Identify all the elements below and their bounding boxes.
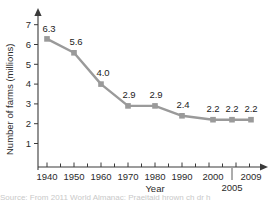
- data-point-label: 2.9: [122, 89, 135, 100]
- x-tick-label-1990: 1990: [171, 171, 192, 182]
- data-point-label: 5.6: [69, 36, 82, 47]
- x-axis-arrow-icon: [260, 163, 268, 170]
- y-tick-label-3: 3: [26, 98, 31, 109]
- data-point-label: 4.0: [96, 67, 109, 78]
- data-point-label: 2.2: [206, 103, 219, 114]
- x-tick-label-2005: 2005: [221, 182, 242, 193]
- data-point-marker: [71, 50, 77, 56]
- data-point-marker: [210, 117, 216, 123]
- data-point-marker: [248, 117, 254, 123]
- x-tick-marks: [47, 163, 250, 168]
- data-point-label: 2.2: [225, 103, 238, 114]
- y-axis-title: Number of farms (millions): [4, 44, 15, 155]
- data-point-label: 2.9: [149, 89, 162, 100]
- data-point-markers: [44, 36, 254, 122]
- y-axis: [34, 8, 41, 170]
- data-point-marker: [179, 113, 185, 119]
- data-point-marker: [229, 117, 235, 123]
- chart-svg: 7 6 5 4 3 2 1 Number of farms (millions): [0, 0, 271, 202]
- data-point-label: 2.2: [244, 103, 257, 114]
- data-point-marker: [98, 81, 104, 87]
- x-tick-label-1980: 1980: [144, 171, 165, 182]
- y-tick-label-1: 1: [26, 138, 31, 149]
- data-point-label: 6.3: [42, 23, 55, 34]
- x-axis-title: Year: [145, 183, 164, 194]
- source-caption-clipped: Source: From 2011 World Almanac: Praeita…: [0, 194, 271, 202]
- data-line-series: [47, 39, 251, 120]
- y-tick-marks: [34, 25, 38, 144]
- y-tick-label-7: 7: [26, 19, 31, 30]
- x-tick-label-1960: 1960: [90, 171, 111, 182]
- data-point-label: 2.4: [176, 99, 189, 110]
- y-tick-label-6: 6: [26, 39, 31, 50]
- x-tick-label-1950: 1950: [63, 171, 84, 182]
- x-tick-label-1940: 1940: [36, 171, 57, 182]
- farms-line-chart: 7 6 5 4 3 2 1 Number of farms (millions): [0, 0, 271, 202]
- x-tick-label-2000: 2000: [202, 171, 223, 182]
- x-tick-label-2009: 2009: [240, 171, 261, 182]
- x-tick-label-1970: 1970: [117, 171, 138, 182]
- data-point-marker: [152, 103, 158, 109]
- y-tick-label-2: 2: [26, 118, 31, 129]
- y-tick-label-4: 4: [26, 78, 31, 89]
- data-point-marker: [44, 36, 50, 42]
- y-tick-label-5: 5: [26, 59, 31, 70]
- x-axis: [38, 163, 268, 170]
- data-point-marker: [125, 103, 131, 109]
- y-axis-arrow-icon: [34, 8, 41, 16]
